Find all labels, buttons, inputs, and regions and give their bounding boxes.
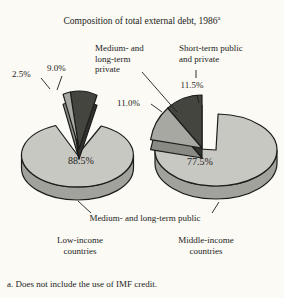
- value-label-low-main: 88.5%: [56, 156, 106, 167]
- pie-middle-income: [151, 95, 277, 199]
- leader-line-ml-public-left: [78, 201, 91, 213]
- label-medium-long-term-public: Medium- and long-term public: [50, 213, 240, 224]
- value-label-mid-private: 11.0%: [117, 98, 140, 109]
- chart-title-text: Composition of total external debt, 1986: [64, 16, 218, 26]
- value-label-low-private: 2.5%: [12, 69, 31, 80]
- chart-footnote: a. Does not include the use of IMF credi…: [7, 279, 277, 290]
- leader-line-9-0: [57, 76, 62, 90]
- chart-title: Composition of total external debt, 1986…: [0, 12, 284, 27]
- value-label-low-short: 9.0%: [47, 63, 66, 74]
- chart-figure: Composition of total external debt, 1986…: [0, 0, 284, 298]
- leader-line-ml-private: [142, 72, 177, 112]
- value-label-mid-main: 77.5%: [175, 157, 225, 168]
- leader-line-ml-public-right: [212, 202, 219, 213]
- value-label-mid-short: 11.5%: [172, 80, 212, 91]
- chart-title-footnote-marker: a: [218, 14, 221, 21]
- leader-line-2-5: [41, 78, 50, 89]
- caption-middle-income-countries: Middle-income countries: [164, 235, 248, 256]
- label-medium-long-term-private: Medium- and long-term private: [95, 43, 167, 75]
- leader-line-11-0: [151, 104, 162, 112]
- label-short-term-public-private: Short-term public and private: [179, 43, 271, 64]
- caption-low-income-countries: Low-income countries: [38, 235, 122, 256]
